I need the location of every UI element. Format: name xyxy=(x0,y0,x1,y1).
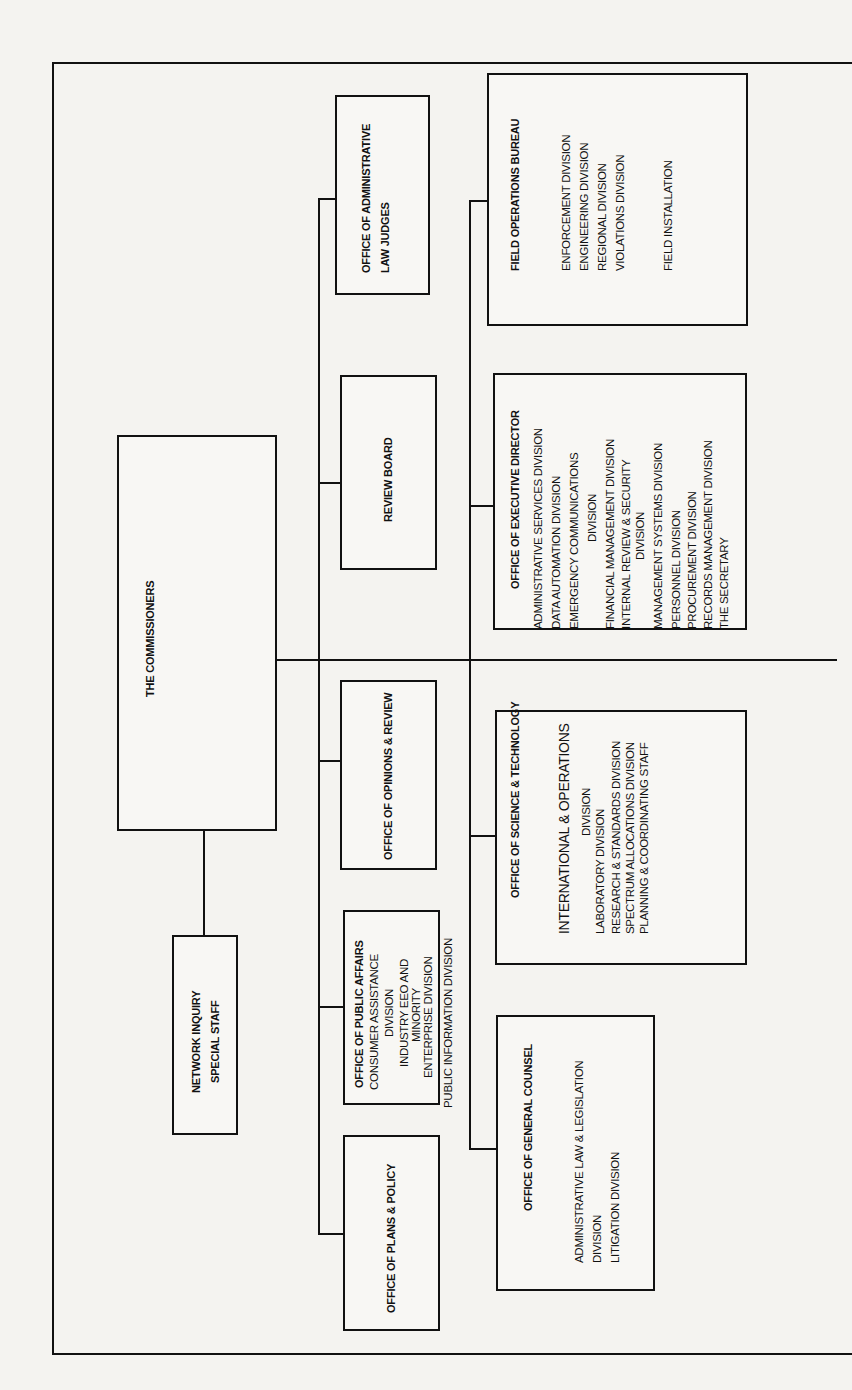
connector-exec-director xyxy=(469,505,493,507)
public-affairs-item: CONSUMER ASSISTANCE xyxy=(367,954,382,1090)
alj-label-2: LAW JUDGES xyxy=(379,202,391,273)
commissioners-label: THE COMMISSIONERS xyxy=(144,581,156,697)
connector-general-counsel xyxy=(469,1148,496,1150)
connector-plans-policy xyxy=(318,1233,343,1235)
connector-sci-tech xyxy=(469,835,495,837)
public-affairs-item: ENTERPRISE DIVISION xyxy=(421,957,436,1078)
executive-director-item: PROCUREMENT DIVISION xyxy=(685,491,700,629)
science-technology-item: INTERNATIONAL & OPERATIONS xyxy=(557,723,572,934)
network-inquiry-box[interactable]: NETWORK INQUIRY SPECIAL STAFF xyxy=(172,935,238,1135)
plans-policy-label: OFFICE OF PLANS & POLICY xyxy=(385,1164,397,1313)
executive-director-item: THE SECRETARY xyxy=(717,537,732,629)
field-operations-label: FIELD OPERATIONS BUREAU xyxy=(509,119,521,271)
general-counsel-label: OFFICE OF GENERAL COUNSEL xyxy=(522,1044,534,1211)
general-counsel-item: ADMINISTRATIVE LAW & LEGISLATION xyxy=(572,1061,587,1263)
science-technology-label: OFFICE OF SCIENCE & TECHNOLOGY xyxy=(509,702,521,898)
connector-alj xyxy=(318,198,335,200)
science-technology-item: RESEARCH & STANDARDS DIVISION xyxy=(609,741,624,934)
connector-review-board xyxy=(318,482,340,484)
science-technology-box[interactable]: OFFICE OF SCIENCE & TECHNOLOGY INTERNATI… xyxy=(495,710,747,965)
executive-director-item: ADMINISTRATIVE SERVICES DIVISION xyxy=(531,428,546,629)
general-counsel-item: DIVISION xyxy=(590,1215,605,1263)
field-operations-item: VIOLATIONS DIVISION xyxy=(613,155,628,271)
executive-director-label: OFFICE OF EXECUTIVE DIRECTOR xyxy=(509,410,521,589)
science-technology-item: DIVISION xyxy=(579,788,594,836)
opinions-review-label: OFFICE OF OPINIONS & REVIEW xyxy=(382,692,394,860)
public-information-division: PUBLIC INFORMATION DIVISION xyxy=(441,938,456,1108)
general-counsel-box[interactable]: OFFICE OF GENERAL COUNSEL ADMINISTRATIVE… xyxy=(496,1015,655,1291)
connector-top-bus xyxy=(318,198,320,1235)
science-technology-item: LABORATORY DIVISION xyxy=(593,809,608,934)
executive-director-item: DIVISION xyxy=(585,494,600,542)
field-operations-item: ENFORCEMENT DIVISION xyxy=(559,135,574,271)
executive-director-item: INTERNAL REVIEW & SECURITY xyxy=(619,460,634,629)
executive-director-item: RECORDS MANAGEMENT DIVISION xyxy=(701,441,716,630)
connector-bottom-bus xyxy=(469,200,471,1150)
executive-director-item: FINANCIAL MANAGEMENT DIVISION xyxy=(603,439,618,629)
public-affairs-label: OFFICE OF PUBLIC AFFAIRS xyxy=(353,940,365,1088)
public-affairs-box[interactable]: OFFICE OF PUBLIC AFFAIRS CONSUMER ASSIST… xyxy=(343,910,440,1105)
field-operations-item: FIELD INSTALLATION xyxy=(661,161,676,271)
review-board-label: REVIEW BOARD xyxy=(382,438,394,522)
science-technology-item: SPECTRUM ALLOCATIONS DIVISION xyxy=(623,742,638,934)
executive-director-item: PERSONNEL DIVISION xyxy=(669,510,684,629)
executive-director-item: EMERGENCY COMMUNICATIONS xyxy=(567,453,582,629)
connector-opinions xyxy=(318,760,340,762)
network-inquiry-label-2: SPECIAL STAFF xyxy=(209,1000,221,1083)
science-technology-item: PLANNING & COORDINATING STAFF xyxy=(637,742,652,934)
connector-field-ops xyxy=(469,200,487,202)
executive-director-box[interactable]: OFFICE OF EXECUTIVE DIRECTOR ADMINISTRAT… xyxy=(493,373,747,630)
executive-director-item: MANAGEMENT SYSTEMS DIVISION xyxy=(651,443,666,629)
opinions-review-box[interactable]: OFFICE OF OPINIONS & REVIEW xyxy=(340,680,437,870)
field-operations-box[interactable]: FIELD OPERATIONS BUREAU ENFORCEMENT DIVI… xyxy=(487,73,748,326)
commissioners-box[interactable]: THE COMMISSIONERS xyxy=(117,435,277,831)
public-affairs-item: DIVISION xyxy=(382,989,397,1037)
plans-policy-box[interactable]: OFFICE OF PLANS & POLICY xyxy=(343,1135,440,1331)
general-counsel-item: LITIGATION DIVISION xyxy=(608,1152,623,1263)
review-board-box[interactable]: REVIEW BOARD xyxy=(340,375,437,570)
network-inquiry-label-1: NETWORK INQUIRY xyxy=(190,991,202,1093)
field-operations-item: REGIONAL DIVISION xyxy=(595,163,610,271)
executive-director-item: DATA AUTOMATION DIVISION xyxy=(549,476,564,629)
connector-main-horizontal xyxy=(277,659,837,661)
alj-box[interactable]: OFFICE OF ADMINISTRATIVE LAW JUDGES xyxy=(335,95,430,295)
alj-label-1: OFFICE OF ADMINISTRATIVE xyxy=(360,124,372,273)
field-operations-item: ENGINEERING DIVISION xyxy=(577,143,592,271)
connector-staff xyxy=(203,830,205,935)
executive-director-item: DIVISION xyxy=(633,512,648,560)
connector-public-affairs xyxy=(318,1006,343,1008)
